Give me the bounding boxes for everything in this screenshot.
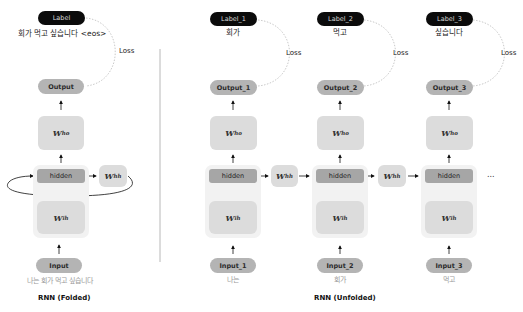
step1-hidden-state: hidden: [209, 169, 257, 183]
step2-output-text: Output_2: [324, 84, 357, 92]
w-ho-base: W: [332, 128, 341, 138]
step1-input-word: 나는: [208, 274, 258, 284]
step2-input-node: Input_2: [317, 258, 363, 273]
folded-output-text: Output: [48, 83, 74, 91]
folded-input-node: Input: [36, 258, 82, 273]
step2-label-text: Label_2: [328, 15, 353, 23]
w-ih-base: W: [225, 213, 234, 223]
w-hh-sub: hh: [285, 173, 293, 179]
step3-input-node: Input_3: [426, 258, 472, 273]
step3-label-node: Label_3: [426, 12, 473, 26]
step3-w-ih-box: Wih: [425, 201, 473, 234]
w-hh-box-2-3: Whh: [378, 165, 406, 187]
step2-input-word: 회가: [315, 274, 365, 284]
step3-target-word: 싶습니다: [424, 26, 474, 37]
step2-hidden-state: hidden: [316, 169, 364, 183]
folded-input-text: Input: [49, 262, 68, 270]
w-ho-base: W: [53, 128, 62, 138]
step2-target-word: 먹고: [315, 26, 365, 37]
step3-input-text: Input_3: [435, 262, 462, 270]
step1-w-ih-box: Wih: [209, 201, 257, 234]
step2-input-text: Input_2: [326, 262, 353, 270]
step1-input-text: Input_1: [219, 262, 246, 270]
folded-w-ih-box: Wih: [37, 201, 85, 234]
step3-label-text: Label_3: [437, 15, 462, 23]
w-ho-sub: ho: [62, 130, 70, 136]
folded-w-ho-box: Who: [38, 116, 84, 150]
w-ih-sub: ih: [234, 215, 240, 221]
folded-label-text: Label: [53, 14, 71, 22]
step1-output-text: Output_1: [217, 84, 250, 92]
step2-loss-label: Loss: [393, 49, 408, 57]
folded-input-sentence: 나는 회가 먹고 싶습니다: [8, 275, 112, 285]
step3-hidden-text: hidden: [438, 172, 460, 180]
step3-loss-label: Loss: [501, 49, 516, 57]
step3-input-word: 먹고: [424, 274, 474, 284]
w-hh-sub: hh: [392, 173, 400, 179]
folded-hidden-text: hidden: [50, 172, 72, 180]
w-hh-box-1-2: Whh: [271, 165, 298, 187]
step2-hidden-text: hidden: [329, 172, 351, 180]
w-hh-base: W: [105, 171, 114, 181]
step3-output-node: Output_3: [426, 80, 473, 95]
folded-caption: RNN (Folded): [38, 294, 90, 302]
w-ih-sub: ih: [62, 215, 68, 221]
w-ho-sub: ho: [234, 130, 242, 136]
step2-label-node: Label_2: [317, 12, 364, 26]
step1-label-text: Label_1: [221, 15, 246, 23]
step1-label-node: Label_1: [210, 12, 257, 26]
w-ho-base: W: [225, 128, 234, 138]
w-ih-base: W: [332, 213, 341, 223]
w-ih-base: W: [441, 213, 450, 223]
folded-label-node: Label: [38, 11, 85, 25]
w-hh-base: W: [384, 171, 393, 181]
folded-output-node: Output: [38, 79, 84, 94]
step1-target-word: 회가: [208, 26, 258, 37]
step1-w-ho-box: Who: [210, 116, 257, 150]
step3-hidden-state: hidden: [425, 169, 473, 183]
continuation-ellipsis: ...: [487, 170, 495, 179]
w-ih-sub: ih: [450, 215, 456, 221]
step1-output-node: Output_1: [210, 80, 257, 95]
w-ho-sub: ho: [341, 130, 349, 136]
step2-w-ih-box: Wih: [316, 201, 364, 234]
folded-target-sentence: 회가 먹고 싶습니다 <eos>: [10, 27, 114, 38]
w-hh-sub: hh: [113, 173, 121, 179]
step2-output-node: Output_2: [317, 80, 364, 95]
folded-w-hh-box: Whh: [99, 165, 127, 187]
step1-input-node: Input_1: [210, 258, 256, 273]
step1-loss-label: Loss: [286, 49, 301, 57]
step2-w-ho-box: Who: [317, 116, 364, 150]
w-ho-base: W: [441, 128, 450, 138]
folded-hidden-state: hidden: [37, 169, 85, 183]
folded-loss-label: Loss: [119, 47, 134, 55]
unfolded-caption: RNN (Unfolded): [314, 294, 376, 302]
step3-w-ho-box: Who: [426, 116, 473, 150]
step1-hidden-text: hidden: [222, 172, 244, 180]
w-ih-sub: ih: [341, 215, 347, 221]
step3-output-text: Output_3: [433, 84, 466, 92]
w-ih-base: W: [53, 213, 62, 223]
w-hh-base: W: [276, 171, 285, 181]
w-ho-sub: ho: [450, 130, 458, 136]
